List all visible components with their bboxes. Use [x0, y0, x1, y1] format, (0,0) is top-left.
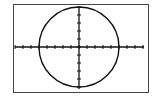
circle-plot: [0, 0, 152, 100]
